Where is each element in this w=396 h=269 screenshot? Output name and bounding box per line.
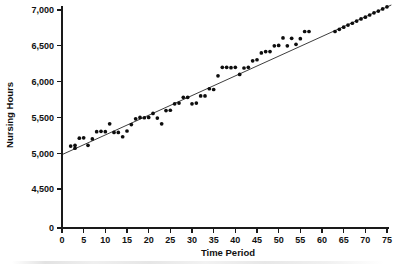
- y-tick-label: 5,000: [31, 149, 54, 159]
- y-axis-tick-labels: 04,5005,0005,5006,0006,5007,000: [31, 5, 54, 233]
- y-axis-ticks: [57, 10, 62, 228]
- data-point: [272, 44, 276, 48]
- x-tick-label: 45: [252, 235, 262, 245]
- data-series-0: [69, 30, 311, 150]
- data-point: [303, 30, 307, 34]
- data-point: [294, 43, 298, 47]
- data-point: [242, 66, 246, 70]
- data-point: [372, 11, 376, 15]
- data-point: [277, 44, 281, 48]
- data-point: [307, 30, 311, 34]
- x-axis-tick-labels: 051015202530354045505560657075: [59, 235, 392, 245]
- x-axis: 051015202530354045505560657075: [59, 228, 392, 245]
- data-point: [77, 136, 81, 140]
- x-tick-label: 65: [339, 235, 349, 245]
- data-point: [177, 101, 181, 105]
- x-tick-label: 30: [187, 235, 197, 245]
- data-point: [229, 66, 233, 70]
- data-point: [381, 7, 385, 11]
- x-axis-ticks: [62, 228, 387, 233]
- data-point: [359, 17, 363, 21]
- data-point: [337, 27, 341, 31]
- y-axis: 04,5005,0005,5006,0006,5007,000: [31, 5, 62, 233]
- data-point: [155, 116, 159, 120]
- data-point: [194, 101, 198, 105]
- data-point: [207, 87, 211, 91]
- data-point: [281, 36, 285, 40]
- x-tick-label: 15: [122, 235, 132, 245]
- data-point: [199, 94, 203, 98]
- x-tick-label: 10: [100, 235, 110, 245]
- data-point: [333, 30, 337, 34]
- data-point: [82, 136, 86, 140]
- data-point: [164, 109, 168, 113]
- y-tick-label: 6,000: [31, 77, 54, 87]
- data-point: [168, 108, 172, 112]
- data-point: [160, 122, 164, 126]
- data-point: [138, 116, 142, 120]
- data-point: [368, 13, 372, 17]
- data-point: [264, 50, 268, 54]
- x-tick-label: 5: [81, 235, 86, 245]
- y-axis-title: Nursing Hours: [4, 82, 15, 148]
- y-tick-label: 0: [49, 223, 54, 233]
- data-point: [90, 137, 94, 141]
- x-tick-label: 0: [59, 235, 64, 245]
- data-point: [246, 65, 250, 69]
- data-point: [238, 73, 242, 77]
- data-point: [203, 94, 207, 98]
- data-point: [116, 131, 120, 135]
- data-point: [134, 117, 138, 121]
- data-point: [355, 19, 359, 23]
- data-point: [259, 51, 263, 55]
- data-point: [363, 15, 367, 19]
- y-tick-label: 7,000: [31, 5, 54, 15]
- data-point: [190, 102, 194, 106]
- data-point: [186, 96, 190, 100]
- data-point: [212, 88, 216, 92]
- data-point: [125, 129, 129, 133]
- data-series-1: [333, 5, 389, 33]
- y-tick-label: 5,500: [31, 113, 54, 123]
- x-tick-label: 60: [317, 235, 327, 245]
- data-points-layer: [69, 5, 389, 150]
- data-point: [86, 143, 90, 147]
- x-tick-label: 20: [144, 235, 154, 245]
- data-point: [255, 58, 259, 62]
- data-point: [298, 37, 302, 41]
- data-point: [95, 130, 99, 134]
- x-tick-label: 25: [165, 235, 175, 245]
- y-tick-label: 6,500: [31, 41, 54, 51]
- data-point: [142, 116, 146, 120]
- data-point: [69, 144, 73, 148]
- data-point: [108, 122, 112, 126]
- data-point: [99, 130, 103, 134]
- x-tick-label: 75: [382, 235, 392, 245]
- data-point: [220, 65, 224, 69]
- x-tick-label: 70: [360, 235, 370, 245]
- scatter-plot-canvas: 04,5005,0005,5006,0006,5007,000 05101520…: [0, 0, 396, 269]
- data-point: [385, 5, 389, 9]
- data-point: [251, 59, 255, 63]
- x-tick-label: 35: [209, 235, 219, 245]
- data-point: [103, 130, 107, 134]
- data-point: [350, 21, 354, 25]
- data-point: [129, 123, 133, 127]
- x-axis-title: Time Period: [201, 247, 255, 258]
- data-point: [290, 36, 294, 40]
- y-tick-label: 4,500: [31, 184, 54, 194]
- data-point: [181, 96, 185, 100]
- nursing-hours-scatter-figure: 04,5005,0005,5006,0006,5007,000 05101520…: [0, 0, 396, 269]
- data-point: [121, 135, 125, 139]
- data-point: [151, 112, 155, 116]
- x-tick-label: 50: [274, 235, 284, 245]
- x-tick-label: 55: [295, 235, 305, 245]
- data-point: [73, 146, 77, 150]
- data-point: [233, 65, 237, 69]
- data-point: [268, 50, 272, 54]
- data-point: [346, 23, 350, 27]
- data-point: [112, 131, 116, 135]
- data-point: [225, 65, 229, 69]
- data-point: [285, 44, 289, 48]
- data-point: [342, 25, 346, 29]
